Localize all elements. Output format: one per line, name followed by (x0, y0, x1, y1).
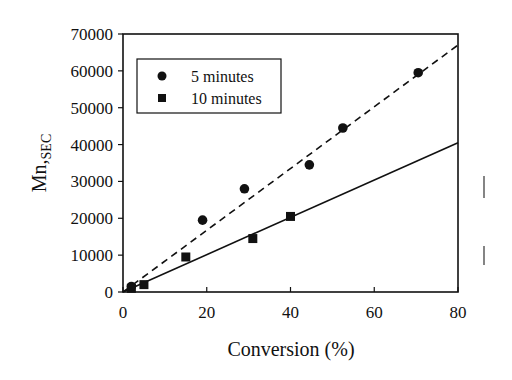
x-axis-label: Conversion (%) (227, 338, 354, 361)
y-tick-label: 70000 (71, 25, 114, 44)
data-point-square (139, 280, 148, 289)
svg-text:Mn,SEC: Mn,SEC (28, 134, 54, 192)
y-axis-label-main: Mn, (28, 159, 50, 192)
data-point-circle (305, 160, 315, 170)
y-axis-label: Mn,SEC (28, 134, 54, 192)
y-axis-ticks: 010000200003000040000500006000070000 (71, 25, 124, 302)
y-tick-label: 50000 (71, 99, 114, 118)
x-tick-label: 60 (366, 303, 383, 322)
y-tick-label: 0 (105, 283, 114, 302)
y-axis-label-sub: SEC (39, 134, 54, 160)
y-tick-label: 30000 (71, 172, 114, 191)
x-tick-label: 80 (450, 303, 467, 322)
data-point-circle (198, 215, 208, 225)
data-point-square (181, 252, 190, 261)
y-tick-label: 20000 (71, 209, 114, 228)
data-point-circle (240, 184, 250, 194)
data-point-square (248, 234, 257, 243)
x-tick-label: 20 (198, 303, 215, 322)
data-point-square (127, 284, 136, 293)
legend-circle-icon (158, 72, 167, 81)
legend-square-icon (158, 94, 166, 102)
data-point-circle (338, 123, 348, 133)
legend: 5 minutes 10 minutes (137, 59, 281, 113)
y-tick-label: 40000 (71, 136, 114, 155)
x-tick-label: 40 (282, 303, 299, 322)
legend-label-5min: 5 minutes (191, 68, 254, 85)
chart: 010000200003000040000500006000070000 020… (0, 0, 512, 380)
legend-label-10min: 10 minutes (191, 90, 262, 107)
data-point-square (286, 212, 295, 221)
data-point-circle (413, 68, 423, 78)
y-tick-label: 60000 (71, 62, 114, 81)
x-tick-label: 0 (119, 303, 128, 322)
y-tick-label: 10000 (71, 246, 114, 265)
